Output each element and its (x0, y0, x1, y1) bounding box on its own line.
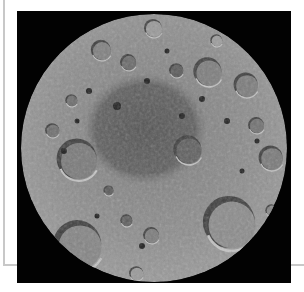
moon-south-pole-image (17, 11, 291, 283)
frame-border-bottom-right (291, 264, 304, 266)
frame-border-left (3, 0, 5, 265)
frame-border-bottom-left (3, 264, 18, 266)
moon-photograph (17, 11, 291, 283)
